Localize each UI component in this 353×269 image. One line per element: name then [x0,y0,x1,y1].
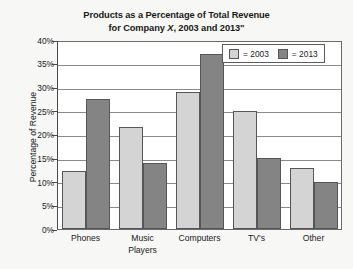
y-tick-label: 5% [10,202,54,210]
chart-title-line-2: for Company X, 2003 and 2013" [0,22,353,35]
y-tick-label: 25% [10,108,54,116]
bar-2003-computers [176,92,200,229]
legend-label-2003: = 2003 [243,49,269,59]
chart-title-line-2-prefix: for Company [109,23,168,33]
bar-group [229,42,286,229]
chart-title-line-2-suffix: , 2003 and 2013" [173,23,244,33]
legend-entry-2003: = 2003 [229,49,269,59]
chart-legend: = 2003= 2013 [222,44,325,63]
y-tick-label: 15% [10,155,54,163]
legend-swatch-2003 [229,49,239,59]
bar-2013-other [314,182,338,229]
chart-title: Products as a Percentage of Total Revenu… [0,9,353,34]
bar-2003-other [290,168,314,229]
y-tick-label: 10% [10,179,54,187]
chart-title-line-1: Products as a Percentage of Total Revenu… [0,9,353,22]
y-tick-label: 35% [10,60,54,68]
legend-entry-2013: = 2013 [278,49,318,59]
bar-group [58,42,115,229]
legend-label-2013: = 2013 [292,49,318,59]
y-tick-label: 30% [10,84,54,92]
bar-group [172,42,229,229]
bar-2013-tv-s [257,158,281,229]
bar-2003-phones [62,171,86,229]
bar-2003-music-players [119,127,143,229]
bar-2003-tv-s [233,111,257,229]
bar-2013-music-players [143,163,167,229]
y-tick-label: 20% [10,131,54,139]
bar-group [286,42,343,229]
bar-2013-phones [86,99,110,229]
x-tick-label: Other [274,233,353,245]
legend-swatch-2013 [278,49,288,59]
x-tick-label-line: Other [274,233,353,245]
bar-2013-computers [200,54,224,229]
plot-area [57,41,342,230]
bar-group [115,42,172,229]
x-tick-label-line: Players [103,245,183,257]
bar-chart-figure: Products as a Percentage of Total Revenu… [0,0,353,269]
y-tick-label: 40% [10,37,54,45]
